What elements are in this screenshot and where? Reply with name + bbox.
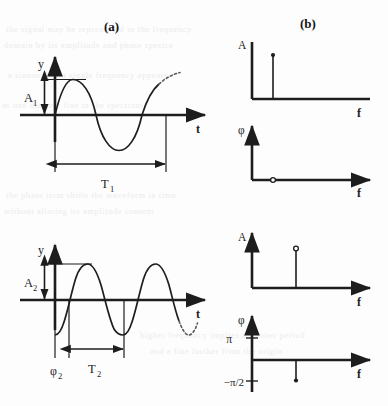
- waveform-2-period-sublabel: 2: [97, 369, 101, 379]
- waveform-1-plot: y t A 1 T 1: [20, 57, 205, 194]
- waveform-1-period-label: T: [101, 177, 109, 191]
- waveform-2-plot: y t A 2 φ 2 T 2: [20, 243, 205, 381]
- phase-2-marker-dot: [294, 378, 298, 382]
- waveform-2-t-axis-label: t: [196, 307, 200, 321]
- phase-1-marker-dot: [271, 178, 276, 183]
- waveform-1-curve-dotted-tail: [159, 73, 180, 85]
- waveform-2-y-axis-label: y: [38, 243, 44, 257]
- phase-1-f-axis-label: f: [357, 186, 362, 200]
- phase-2-tick-label-pi: π: [226, 333, 232, 345]
- figure-canvas: y t A 1 T 1 y t A 2: [0, 0, 388, 406]
- waveform-2-phase-label: φ: [50, 364, 57, 378]
- amp-2-f-axis-label: f: [357, 295, 362, 309]
- waveform-1-amplitude-sublabel: 1: [33, 98, 37, 108]
- amplitude-spectrum-1-plot: A f: [238, 39, 370, 120]
- phase-2-tick-label-neg-half-pi: −π/2: [224, 376, 244, 388]
- waveform-2-phase-sublabel: 2: [58, 371, 62, 381]
- waveform-1-t-axis-label: t: [196, 122, 200, 136]
- waveform-2-period-label: T: [88, 362, 96, 376]
- amp-1-y-axis-label: A: [238, 39, 247, 51]
- panel-label-b: (b): [300, 16, 316, 32]
- amp-2-y-axis-label: A: [238, 231, 247, 243]
- phase-1-y-axis-label: φ: [238, 124, 245, 137]
- waveform-2-curve-dotted-tail: [179, 321, 198, 335]
- phase-2-f-axis-label: f: [357, 367, 362, 381]
- phase-spectrum-2-plot: φ f π −π/2: [224, 314, 370, 392]
- figure-sinusoids-and-spectra: (a) (b): [0, 0, 388, 406]
- waveform-1-period-sublabel: 1: [110, 184, 114, 194]
- panel-label-a: (a): [104, 19, 119, 35]
- waveform-2-amplitude-sublabel: 2: [33, 283, 37, 293]
- waveform-1-amplitude-label: A: [24, 91, 33, 105]
- waveform-1-y-axis-label: y: [38, 57, 44, 71]
- waveform-2-amplitude-label: A: [24, 276, 33, 290]
- amplitude-spectrum-2-plot: A f: [238, 231, 370, 309]
- phase-2-y-axis-label: φ: [238, 314, 245, 327]
- amp-1-marker-dot: [271, 53, 275, 57]
- amp-2-marker-dot: [294, 246, 299, 251]
- amp-1-f-axis-label: f: [357, 106, 362, 120]
- phase-spectrum-1-plot: φ f: [238, 124, 370, 200]
